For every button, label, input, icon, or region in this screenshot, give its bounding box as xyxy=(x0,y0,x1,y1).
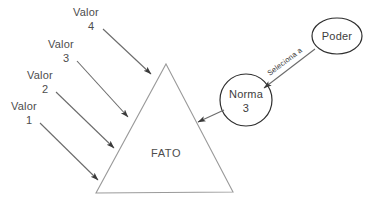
node-poder-label: Poder xyxy=(322,30,352,42)
label-valor-2-number: 2 xyxy=(42,83,48,95)
label-valor-4-number: 4 xyxy=(88,20,94,32)
label-valor-1-number: 1 xyxy=(26,114,32,126)
arrow-valor-1 xyxy=(40,123,98,180)
diagram-canvas: FATO Norma 3 Poder Seleciona a Valor 4 V… xyxy=(0,0,375,208)
label-valor-1-name: Valor xyxy=(11,100,37,112)
fato-triangle xyxy=(96,64,233,193)
node-norma-circle[interactable] xyxy=(220,74,272,126)
diagram-svg: FATO Norma 3 Poder Seleciona a xyxy=(0,0,375,208)
arrow-norma-to-fato xyxy=(198,110,224,122)
arrow-valor-2 xyxy=(56,92,114,148)
label-valor-3-number: 3 xyxy=(63,52,69,64)
arrow-valor-3 xyxy=(77,61,128,117)
arrow-valor-4 xyxy=(103,29,151,74)
label-valor-2-name: Valor xyxy=(27,69,53,81)
fato-label: FATO xyxy=(151,147,181,159)
node-norma-number: 3 xyxy=(243,102,249,114)
node-norma-label: Norma xyxy=(229,88,264,100)
label-valor-3-name: Valor xyxy=(48,38,74,50)
label-valor-4-name: Valor xyxy=(73,6,99,18)
